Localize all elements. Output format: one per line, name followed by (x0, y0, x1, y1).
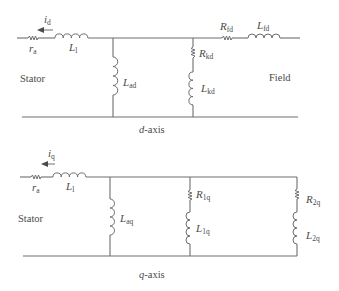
q-l2q-label: L2q (305, 229, 320, 243)
d-lad-inductor (113, 57, 118, 95)
q-l1q-label: L1q (195, 222, 210, 236)
equivalent-circuit-diagram: id ra Ll Lad Rkd Lkd Rfd Lfd Stator Fiel… (0, 0, 339, 291)
q-r1q-label: R1q (195, 188, 210, 202)
q-current-arrow-icon (41, 161, 48, 167)
d-rkd-label: Rkd (198, 47, 213, 61)
d-current-label: id (44, 13, 51, 27)
d-rkd-resistor (191, 47, 195, 58)
d-lfd-inductor (248, 34, 280, 38)
q-r1q-resistor (188, 190, 192, 200)
q-stator-label: Stator (18, 213, 44, 224)
q-axis-title: q-axis (139, 269, 165, 280)
q-axis-circuit: iq ra Ll Laq R1q L1q R2q L2q Stator q-ax… (18, 147, 320, 280)
q-ra-label: ra (32, 181, 40, 195)
d-lkd-inductor (189, 72, 193, 105)
q-laq-inductor (110, 199, 115, 235)
d-l1-inductor (55, 34, 88, 38)
q-r2q-label: R2q (305, 193, 320, 207)
d-current-arrow-icon (37, 27, 44, 33)
d-lkd-label: Lkd (200, 82, 215, 96)
d-lad-label: Lad (122, 76, 136, 90)
d-ra-label: ra (29, 42, 37, 56)
d-rfd-label: Rfd (219, 20, 233, 34)
q-r2q-resistor (295, 189, 299, 199)
d-axis-title: d-axis (139, 124, 165, 135)
q-l2q-inductor (293, 212, 297, 244)
d-lfd-label: Lfd (256, 19, 270, 33)
q-l1-label: Ll (65, 180, 74, 194)
d-axis-circuit: id ra Ll Lad Rkd Lkd Rfd Lfd Stator Fiel… (17, 13, 300, 135)
q-l1-inductor (53, 173, 86, 177)
d-rfd-resistor (222, 36, 232, 40)
q-ra-resistor (31, 175, 41, 179)
q-laq-label: Laq (119, 212, 133, 226)
q-current-label: iq (48, 147, 55, 161)
d-ra-resistor (28, 36, 38, 40)
d-l1-label: Ll (68, 41, 77, 55)
d-stator-label: Stator (20, 73, 46, 84)
d-field-label: Field (269, 72, 291, 83)
q-l1q-inductor (186, 212, 190, 244)
